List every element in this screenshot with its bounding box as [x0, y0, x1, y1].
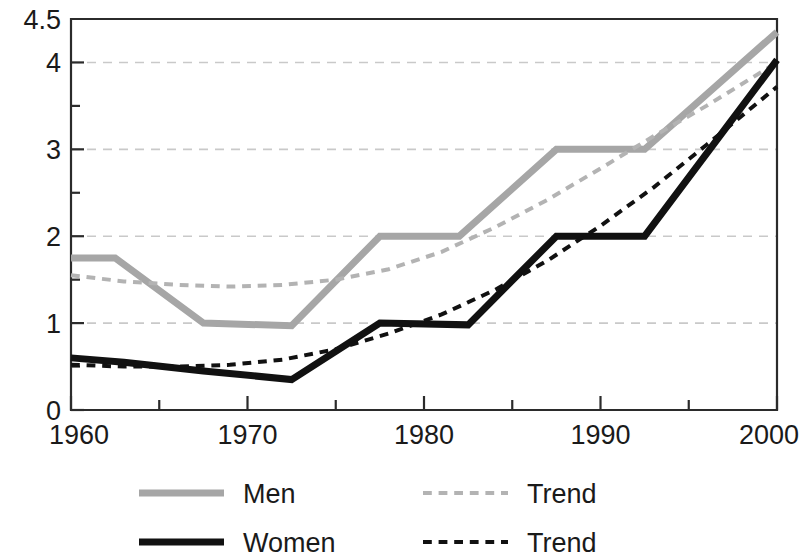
- x-tick-label: 1990: [570, 420, 630, 450]
- x-tick-label: 2000: [739, 420, 799, 450]
- legend-label-trend-3: Trend: [527, 528, 597, 558]
- y-tick-label: 3: [46, 135, 61, 165]
- x-tick-label: 1980: [394, 420, 454, 450]
- line-chart-figure: 19601970198019902000 012344.5 MenTrendWo…: [0, 0, 800, 559]
- y-tick-label: 2: [46, 222, 61, 252]
- y-tick-label: 0: [46, 396, 61, 426]
- legend-label-women-2: Women: [243, 528, 336, 558]
- legend-label-men-0: Men: [243, 479, 296, 509]
- y-tick-label: 1: [46, 309, 61, 339]
- y-tick-label: 4.5: [23, 5, 61, 35]
- legend-label-trend-1: Trend: [527, 479, 597, 509]
- chart-container: 19601970198019902000 012344.5 MenTrendWo…: [0, 0, 800, 559]
- y-tick-label: 4: [46, 48, 61, 78]
- x-tick-label: 1970: [217, 420, 277, 450]
